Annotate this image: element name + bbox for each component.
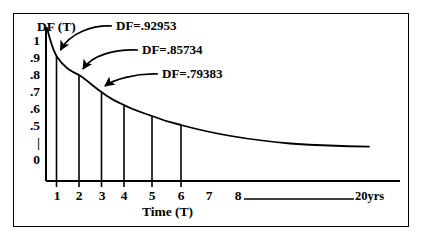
x-axis-end-label: 20yrs — [355, 190, 384, 203]
chart-canvas — [0, 0, 424, 240]
annotation-df-85734: DF=.85734 — [142, 43, 203, 56]
y-tick-label-08: .8 — [22, 68, 40, 82]
x-tick-label-7: 7 — [200, 189, 218, 203]
y-tick-label-07: .7 — [22, 85, 40, 99]
x-tick-label-6: 6 — [172, 189, 190, 203]
figure-root: DF (T) 1 .9 .8 .7 .6 .5 | 0 1 2 3 4 5 6 … — [0, 0, 424, 240]
x-tick-label-1: 1 — [48, 189, 66, 203]
y-axis-title: DF (T) — [37, 20, 76, 34]
y-tick-label-dash: | — [22, 136, 40, 150]
discount-factor-curve — [47, 28, 369, 147]
y-tick-label-05: .5 — [22, 119, 40, 133]
y-tick-label-0: 0 — [22, 153, 40, 167]
x-tick-label-5: 5 — [143, 189, 161, 203]
x-tick-label-4: 4 — [115, 189, 133, 203]
x-tick-label-8: 8 — [229, 189, 247, 203]
x-tick-label-3: 3 — [93, 189, 111, 203]
y-tick-label-09: .9 — [22, 51, 40, 65]
y-tick-label-1: 1 — [22, 34, 40, 48]
annotation-df-79383: DF=.79383 — [162, 67, 223, 80]
x-axis-title: Time (T) — [142, 205, 193, 219]
callout-leader-3 — [105, 74, 158, 86]
y-tick-label-06: .6 — [22, 102, 40, 116]
callout-leader-2 — [83, 50, 138, 69]
x-tick-label-2: 2 — [70, 189, 88, 203]
annotation-df-92953: DF=.92953 — [116, 19, 177, 32]
